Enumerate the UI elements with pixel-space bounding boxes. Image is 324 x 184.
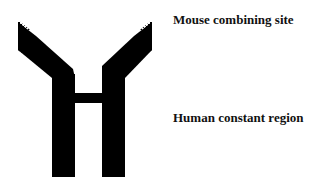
human-constant-region-label: Human constant region xyxy=(173,111,323,125)
left-chain-human-region xyxy=(52,74,75,177)
antibody-shape-icon xyxy=(0,0,324,184)
mouse-combining-site-label: Mouse combining site xyxy=(173,13,313,27)
left-arm-mouse-region xyxy=(18,20,75,78)
right-chain-human-region xyxy=(102,70,125,177)
right-arm-mouse-region xyxy=(102,20,152,78)
antibody-diagram: Mouse combining site Human constant regi… xyxy=(0,0,324,184)
hinge-crossbar xyxy=(74,93,103,103)
